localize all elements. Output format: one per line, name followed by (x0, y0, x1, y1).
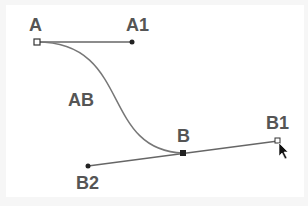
anchor-point-b[interactable] (180, 150, 186, 156)
label-b2: B2 (76, 174, 99, 192)
control-point-b1[interactable] (275, 138, 280, 143)
label-b: B (177, 127, 190, 145)
label-a1: A1 (126, 16, 149, 34)
cursor-arrow-icon (279, 143, 288, 159)
bezier-curve-ab[interactable] (37, 42, 183, 153)
label-b1: B1 (266, 114, 289, 132)
label-a: A (29, 16, 42, 34)
bezier-diagram (0, 0, 308, 206)
diagram-canvas: A A1 AB B B1 B2 (0, 0, 308, 206)
control-point-a1[interactable] (130, 40, 135, 45)
anchor-point-a[interactable] (34, 39, 40, 45)
control-point-b2[interactable] (86, 164, 91, 169)
label-curve-ab: AB (68, 91, 94, 109)
